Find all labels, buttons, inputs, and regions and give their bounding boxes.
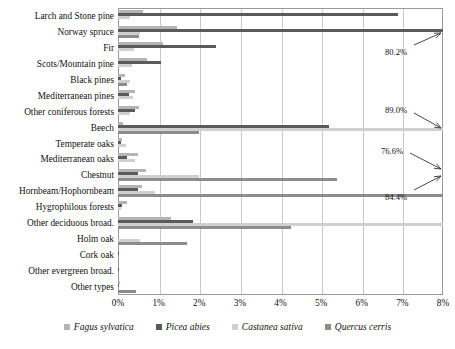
bar xyxy=(118,112,130,115)
x-axis-tick-label: 2% xyxy=(193,297,205,309)
bar-group xyxy=(118,72,443,88)
bar xyxy=(118,48,134,51)
bar xyxy=(118,284,119,287)
y-axis-tick-label: Larch and Stone pine xyxy=(0,11,114,21)
y-axis-tick-label: Scots/Mountain pine xyxy=(0,59,114,69)
x-axis-tick-label: 7% xyxy=(396,297,408,309)
y-axis-tick-label: Norway spruce xyxy=(0,27,114,37)
bar xyxy=(118,16,130,19)
x-axis-tick-label: 6% xyxy=(356,297,368,309)
x-axis-tick-label: 3% xyxy=(234,297,246,309)
legend-item[interactable]: Picea abies xyxy=(156,322,210,332)
legend-item-label: Fagus sylvatica xyxy=(74,322,134,332)
value-annotation: 80.2% xyxy=(385,47,407,57)
x-axis-labels: 0%1%2%3%4%5%6%7%8% xyxy=(118,297,443,311)
bar xyxy=(118,29,443,32)
bar xyxy=(118,252,119,255)
legend-swatch-icon xyxy=(156,324,162,330)
bar-group xyxy=(118,88,443,104)
bar xyxy=(118,226,291,229)
bar xyxy=(118,13,398,16)
y-axis-tick-label: Beech xyxy=(0,123,114,133)
bar xyxy=(118,159,135,162)
legend-item-label: Quercus cerris xyxy=(335,322,391,332)
bar xyxy=(118,144,126,147)
bar xyxy=(118,290,136,293)
y-axis-tick-label: Other coniferous forests xyxy=(0,107,114,117)
y-axis-tick-label: Mediterranean pines xyxy=(0,91,114,101)
bar-chart: Larch and Stone pineNorway spruceFirScot… xyxy=(0,0,455,349)
y-axis-tick-label: Mediterranean oaks xyxy=(0,154,114,164)
legend-swatch-icon xyxy=(64,324,70,330)
legend-item-label: Castanea sativa xyxy=(242,322,303,332)
legend-swatch-icon xyxy=(325,324,331,330)
bar xyxy=(118,96,133,99)
value-annotation: 76.6% xyxy=(381,146,403,156)
annotation-arrow-icon xyxy=(406,105,449,136)
bar-group xyxy=(118,167,443,183)
chart-legend: Fagus sylvaticaPicea abiesCastanea sativ… xyxy=(0,322,455,332)
bar xyxy=(118,35,139,38)
y-axis-tick-label: Holm oak xyxy=(0,234,114,244)
bar xyxy=(118,178,337,181)
bar xyxy=(118,131,199,134)
y-axis-tick-label: Fir xyxy=(0,43,114,53)
y-axis-tick-label: Chestnut xyxy=(0,170,114,180)
legend-swatch-icon xyxy=(232,324,238,330)
bar-group xyxy=(118,24,443,40)
bar xyxy=(118,207,121,210)
x-axis-tick-label: 5% xyxy=(315,297,327,309)
y-axis-tick-label: Hornbeam/Hophornbeam xyxy=(0,186,114,196)
bar-group xyxy=(118,215,443,231)
y-axis-tick-label: Other deciduous broad. xyxy=(0,218,114,228)
bar-group xyxy=(118,279,443,295)
bar-group xyxy=(118,263,443,279)
bar xyxy=(118,268,119,271)
value-annotation: 84.4% xyxy=(385,192,407,202)
bar-group xyxy=(118,247,443,263)
y-axis-tick-label: Other evergreen broad. xyxy=(0,266,114,276)
bar-group xyxy=(118,8,443,24)
x-axis-tick-label: 4% xyxy=(274,297,286,309)
x-axis-tick-label: 0% xyxy=(112,297,124,309)
bar-group xyxy=(118,56,443,72)
annotation-arrow-icon xyxy=(406,25,449,53)
bar xyxy=(118,242,187,245)
y-axis-tick-label: Black pines xyxy=(0,75,114,85)
y-axis-tick-label: Other types xyxy=(0,282,114,292)
y-axis-tick-label: Temperate oaks xyxy=(0,139,114,149)
legend-item-label: Picea abies xyxy=(166,322,210,332)
bar xyxy=(118,83,127,86)
bar-group xyxy=(118,231,443,247)
annotation-arrow-icon xyxy=(406,168,449,198)
legend-item[interactable]: Quercus cerris xyxy=(325,322,391,332)
y-axis-tick-label: Cork oak xyxy=(0,250,114,260)
bar-group xyxy=(118,120,443,136)
legend-item[interactable]: Fagus sylvatica xyxy=(64,322,134,332)
y-axis-labels: Larch and Stone pineNorway spruceFirScot… xyxy=(0,8,114,295)
x-axis-tick-label: 1% xyxy=(152,297,164,309)
y-axis-tick-label: Hygrophilous forests xyxy=(0,202,114,212)
bar xyxy=(118,64,132,67)
value-annotation: 89.0% xyxy=(385,105,407,115)
legend-item[interactable]: Castanea sativa xyxy=(232,322,303,332)
x-axis-tick-label: 8% xyxy=(437,297,449,309)
